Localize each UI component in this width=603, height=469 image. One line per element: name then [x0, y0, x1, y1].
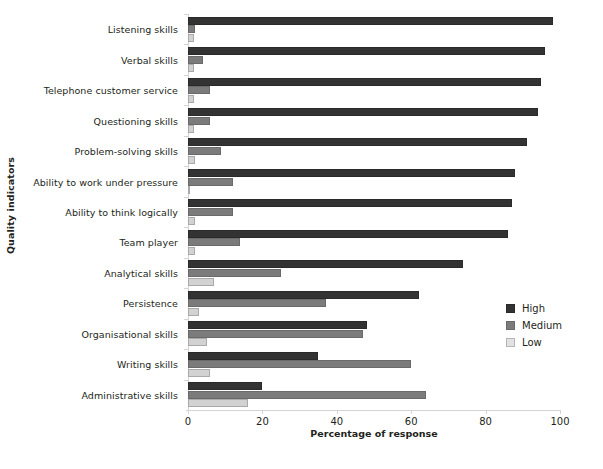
- bar-group: [188, 169, 560, 194]
- bar-low: [188, 308, 199, 316]
- bar-high: [188, 291, 419, 299]
- y-minor-tick: [184, 258, 188, 259]
- bar-low: [188, 247, 195, 255]
- bar-medium: [188, 360, 411, 368]
- bar-high: [188, 169, 515, 177]
- y-tick-label: Ability to think logically: [65, 207, 178, 218]
- bar-medium: [188, 391, 426, 399]
- bar-high: [188, 108, 538, 116]
- y-minor-tick: [184, 227, 188, 228]
- legend-swatch-low: [506, 338, 515, 347]
- bar-high: [188, 78, 541, 86]
- bar-group: [188, 199, 560, 224]
- bar-medium: [188, 269, 281, 277]
- y-axis-title-text: Quality indicators: [6, 156, 17, 253]
- y-minor-tick: [184, 44, 188, 45]
- bar-group: [188, 230, 560, 255]
- bar-chart: Quality indicators Listening skillsVerba…: [0, 0, 603, 469]
- bar-low: [188, 125, 194, 133]
- bar-medium: [188, 117, 210, 125]
- y-minor-tick: [184, 105, 188, 106]
- legend-swatch-high: [506, 304, 515, 313]
- y-minor-tick: [184, 136, 188, 137]
- bar-low: [188, 34, 194, 42]
- y-tick-label: Telephone customer service: [44, 85, 178, 96]
- x-tick-label: 80: [479, 416, 492, 427]
- bar-medium: [188, 299, 326, 307]
- x-tick-label: 0: [185, 416, 191, 427]
- bar-medium: [188, 147, 221, 155]
- x-tick-mark: [337, 410, 338, 414]
- bar-medium: [188, 86, 210, 94]
- y-tick-label: Organisational skills: [81, 328, 178, 339]
- x-tick-mark: [188, 410, 189, 414]
- legend-label: High: [522, 303, 545, 314]
- bar-high: [188, 199, 512, 207]
- bar-low: [188, 399, 248, 407]
- y-axis-title: Quality indicators: [2, 0, 20, 410]
- bar-medium: [188, 56, 203, 64]
- y-minor-tick: [184, 319, 188, 320]
- y-tick-label: Listening skills: [108, 24, 178, 35]
- bar-low: [188, 186, 190, 194]
- x-tick-label: 20: [256, 416, 269, 427]
- x-axis-title: Percentage of response: [188, 428, 560, 439]
- bar-group: [188, 78, 560, 103]
- x-tick-label: 100: [550, 416, 569, 427]
- legend-label: Medium: [522, 320, 562, 331]
- x-axis-line: [186, 410, 560, 411]
- x-tick-mark: [411, 410, 412, 414]
- y-tick-label: Verbal skills: [121, 54, 178, 65]
- x-tick-label: 60: [405, 416, 418, 427]
- bar-group: [188, 47, 560, 72]
- legend-swatch-medium: [506, 321, 515, 330]
- bar-high: [188, 352, 318, 360]
- bar-medium: [188, 208, 233, 216]
- y-tick-label: Persistence: [123, 298, 178, 309]
- bar-medium: [188, 25, 195, 33]
- y-minor-tick: [184, 349, 188, 350]
- y-minor-tick: [184, 14, 188, 15]
- bar-low: [188, 217, 195, 225]
- bar-high: [188, 382, 262, 390]
- bar-group: [188, 17, 560, 42]
- y-tick-label: Problem-solving skills: [75, 146, 178, 157]
- bar-low: [188, 95, 194, 103]
- y-minor-tick: [184, 197, 188, 198]
- y-tick-label: Questioning skills: [94, 115, 178, 126]
- bar-high: [188, 260, 463, 268]
- x-tick-label: 40: [330, 416, 343, 427]
- bar-low: [188, 278, 214, 286]
- x-tick-mark: [486, 410, 487, 414]
- y-tick-label: Administrative skills: [81, 389, 178, 400]
- bar-medium: [188, 178, 233, 186]
- bar-low: [188, 338, 207, 346]
- legend-item-high[interactable]: High: [506, 300, 562, 317]
- bar-group: [188, 352, 560, 377]
- bar-group: [188, 260, 560, 285]
- bar-low: [188, 369, 210, 377]
- bar-medium: [188, 238, 240, 246]
- y-axis-tick-labels: Listening skillsVerbal skillsTelephone c…: [20, 14, 184, 410]
- x-tick-mark: [262, 410, 263, 414]
- y-tick-label: Writing skills: [117, 359, 178, 370]
- chart-legend: HighMediumLow: [506, 300, 562, 351]
- bar-low: [188, 156, 195, 164]
- bar-group: [188, 382, 560, 407]
- y-tick-label: Analytical skills: [104, 267, 178, 278]
- x-tick-mark: [560, 410, 561, 414]
- bar-group: [188, 108, 560, 133]
- legend-label: Low: [522, 337, 542, 348]
- bar-medium: [188, 330, 363, 338]
- plot-area: 020406080100: [188, 14, 560, 410]
- bar-high: [188, 138, 527, 146]
- legend-item-low[interactable]: Low: [506, 334, 562, 351]
- y-minor-tick: [184, 288, 188, 289]
- legend-item-medium[interactable]: Medium: [506, 317, 562, 334]
- bar-group: [188, 321, 560, 346]
- y-minor-tick: [184, 75, 188, 76]
- bar-group: [188, 291, 560, 316]
- bar-group: [188, 138, 560, 163]
- y-tick-label: Team player: [119, 237, 178, 248]
- bar-high: [188, 47, 545, 55]
